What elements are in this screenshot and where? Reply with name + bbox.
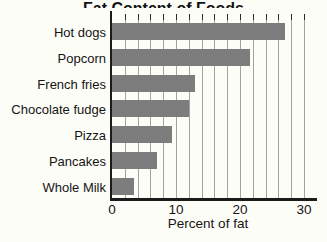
bar-pizza	[112, 126, 172, 143]
category-label-french-fries: French fries	[0, 77, 106, 92]
top-tick-x-26	[278, 14, 279, 20]
chart-title: Fat Content of Foods	[83, 0, 244, 8]
top-tick-x-8	[163, 14, 164, 20]
x-axis-label: Percent of fat	[112, 216, 304, 231]
top-tick-x-18	[227, 14, 228, 20]
bar-popcorn	[112, 49, 250, 66]
x-axis-spine	[110, 198, 317, 201]
top-tick-x-14	[202, 14, 203, 20]
bar-chocolate-fudge	[112, 100, 189, 117]
top-tick-x-16	[214, 14, 215, 20]
top-tick-x-30	[304, 14, 305, 20]
fat-content-bar-chart: Fat Content of Foods Percent of fat Hot …	[0, 0, 327, 242]
bar-french-fries	[112, 75, 195, 92]
gridline-x-26	[278, 14, 279, 198]
category-label-pancakes: Pancakes	[0, 154, 106, 169]
x-tick-label-30: 30	[288, 202, 320, 217]
x-tick-label-10: 10	[160, 202, 192, 217]
chart-title-clip: Fat Content of Foods	[0, 0, 327, 8]
bar-pancakes	[112, 152, 157, 169]
top-tick-x-20	[240, 14, 241, 20]
top-tick-x-24	[266, 14, 267, 20]
category-label-whole-milk: Whole Milk	[0, 180, 106, 195]
category-label-chocolate-fudge: Chocolate fudge	[0, 102, 106, 117]
category-label-popcorn: Popcorn	[0, 51, 106, 66]
gridline-x-28	[291, 14, 292, 198]
gridline-x-22	[253, 14, 254, 198]
gridline-x-14	[202, 14, 203, 198]
x-tick-label-20: 20	[224, 202, 256, 217]
top-tick-x-10	[176, 14, 177, 20]
category-label-hot-dogs: Hot dogs	[0, 25, 106, 40]
x-tick-label-0: 0	[96, 202, 128, 217]
bar-hot-dogs	[112, 23, 285, 40]
top-tick-x-2	[125, 14, 126, 20]
top-tick-x-28	[291, 14, 292, 20]
y-axis-spine	[110, 11, 112, 201]
top-tick-x-12	[189, 14, 190, 20]
top-tick-x-4	[138, 14, 139, 20]
gridline-x-30	[304, 14, 305, 198]
gridline-x-24	[266, 14, 267, 198]
gridline-x-18	[227, 14, 228, 198]
gridline-x-12	[189, 14, 190, 198]
category-label-pizza: Pizza	[0, 128, 106, 143]
bar-whole-milk	[112, 178, 134, 195]
top-tick-x-6	[150, 14, 151, 20]
top-tick-x-22	[253, 14, 254, 20]
gridline-x-20	[240, 14, 241, 198]
gridline-x-16	[214, 14, 215, 198]
